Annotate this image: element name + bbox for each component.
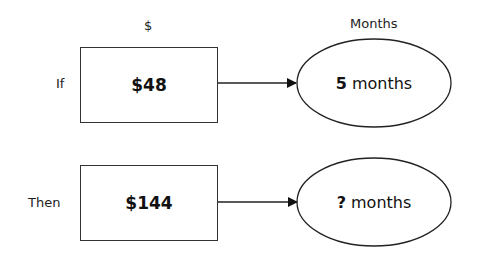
amount-box-if: $48: [80, 47, 218, 123]
months-unit-then: months: [351, 193, 411, 212]
row-label-if: If: [56, 76, 64, 91]
months-column-header: Months: [350, 16, 398, 31]
months-unit-if: months: [352, 74, 412, 93]
months-value-then: ?: [337, 193, 346, 212]
amount-box-then: $144: [80, 165, 218, 241]
months-text-if: 5months: [297, 39, 451, 127]
months-text-then: ?months: [297, 158, 451, 246]
months-value-if: 5: [336, 74, 347, 93]
dollar-column-header: $: [144, 18, 152, 33]
row-label-then: Then: [28, 195, 60, 210]
